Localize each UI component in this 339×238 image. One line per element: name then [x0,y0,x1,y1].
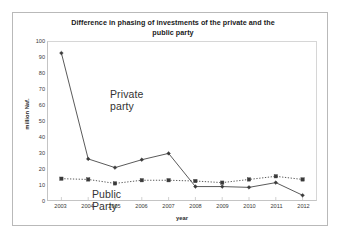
x-tick-label: 2005 [100,203,130,209]
x-tick-label: 2011 [262,203,292,209]
x-tick-label: 2008 [181,203,211,209]
data-point-marker [86,157,90,161]
y-tick-label: 30 [29,150,45,156]
data-point-marker [247,185,251,189]
y-axis-tick-labels: 0102030405060708090100 [27,41,45,201]
data-point-marker [301,178,304,181]
data-point-marker [60,177,63,180]
plot-area: Private party Public Party [47,41,317,201]
x-tick-label: 2003 [46,203,76,209]
y-tick-label: 100 [29,38,45,44]
x-tick-label: 2004 [73,203,103,209]
y-tick-label: 70 [29,86,45,92]
y-tick-label: 60 [29,102,45,108]
chart-title-line-1: Difference in phasing of investments of … [39,18,307,28]
data-point-marker [274,181,278,185]
series-annotation-private: Private party [110,89,143,112]
data-point-marker [220,185,224,189]
x-tick-label: 2010 [235,203,265,209]
y-tick-label: 90 [29,54,45,60]
series-private-party [60,51,305,197]
y-tick-label: 80 [29,70,45,76]
y-tick-label: 10 [29,182,45,188]
x-axis-tick-labels: 2003200420052006200720082009201020112012 [47,203,317,215]
data-point-marker [140,179,143,182]
data-point-marker [60,51,64,55]
x-tick-label: 2006 [127,203,157,209]
x-tick-label: 2012 [289,203,319,209]
series-line [61,53,302,195]
y-tick-label: 50 [29,118,45,124]
x-tick-label: 2007 [154,203,184,209]
series-line [61,176,302,183]
data-point-marker [301,193,305,197]
chart-title-line-2: public party [39,28,307,38]
data-point-marker [194,179,197,182]
data-point-marker [140,158,144,162]
chart-title: Difference in phasing of investments of … [39,18,307,38]
y-tick-label: 0 [29,198,45,204]
data-point-marker [221,181,224,184]
x-axis-title: year [47,215,317,221]
data-point-marker [87,178,90,181]
plot-svg [48,42,316,200]
data-point-marker [113,182,116,185]
series-public-party [60,175,305,185]
data-point-marker [274,175,277,178]
y-tick-label: 20 [29,166,45,172]
data-point-marker [167,179,170,182]
figure-frame: Difference in phasing of investments of … [12,12,328,226]
data-point-marker [247,178,250,181]
y-tick-label: 40 [29,134,45,140]
data-point-marker [113,166,117,170]
x-tick-label: 2009 [208,203,238,209]
